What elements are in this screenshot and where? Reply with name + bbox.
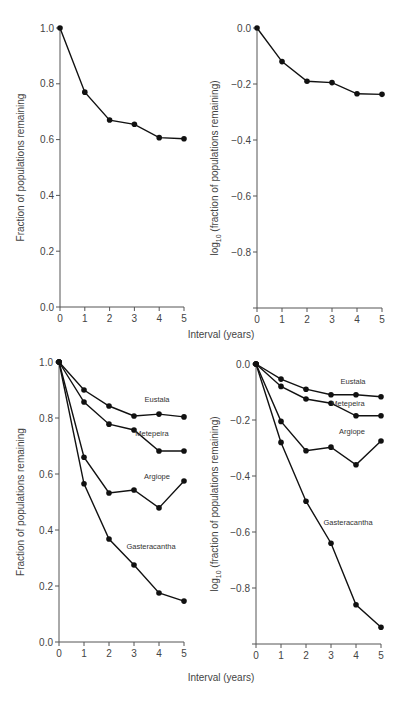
x-tick-label: 5	[181, 313, 187, 324]
x-tick-label: 2	[303, 650, 309, 661]
series-label: Gasteracantha	[126, 542, 176, 551]
x-tick-label: 0	[253, 650, 259, 661]
y-tick-label: −0.4	[231, 135, 251, 146]
y-tick-label: 0.0	[39, 637, 53, 648]
series-label: Metepeira	[331, 399, 365, 408]
data-point	[107, 117, 113, 123]
series-label: Metepeira	[135, 429, 169, 438]
chart-figure: 0123450.00.20.40.60.81.0Fraction of popu…	[0, 0, 407, 704]
x-tick-label: 3	[329, 314, 335, 325]
data-point	[278, 384, 284, 390]
data-point	[131, 562, 137, 568]
data-point	[81, 481, 87, 487]
y-tick-label: 0.4	[39, 525, 53, 536]
series-label: Argiope	[339, 427, 365, 436]
panel-top-left: 0123450.00.20.40.60.81.0Fraction of popu…	[15, 23, 187, 325]
data-point	[181, 448, 187, 454]
data-point	[303, 498, 309, 504]
data-point	[82, 89, 88, 95]
x-tick-label: 5	[379, 314, 385, 325]
y-axis-title: log10 (fraction of populations remaining…	[209, 80, 222, 255]
data-point	[304, 78, 310, 84]
data-point	[329, 80, 335, 86]
series-label: Argiope	[144, 472, 170, 481]
x-tick-label: 0	[254, 314, 260, 325]
series-line-all-species	[257, 28, 382, 94]
data-point	[156, 411, 162, 417]
series-label: Eustala	[340, 377, 366, 386]
data-point	[353, 413, 359, 419]
y-tick-label: 0.6	[39, 469, 53, 480]
y-tick-label: 0.0	[40, 302, 54, 313]
data-point	[328, 392, 334, 398]
data-point	[303, 448, 309, 454]
data-point	[378, 438, 384, 444]
series-line-eustala	[59, 362, 184, 417]
x-axis-title-bottom: Interval (years)	[188, 672, 255, 683]
x-tick-label: 2	[106, 648, 112, 659]
data-point	[353, 392, 359, 398]
x-tick-label: 2	[107, 313, 113, 324]
data-point	[106, 421, 112, 427]
data-point	[106, 490, 112, 496]
data-point	[353, 462, 359, 468]
data-point	[278, 419, 284, 425]
data-point	[181, 478, 187, 484]
y-tick-label: −0.8	[231, 247, 251, 258]
x-tick-label: 3	[132, 313, 138, 324]
data-point	[81, 454, 87, 460]
y-tick-label: 0.8	[40, 78, 54, 89]
data-point	[156, 135, 162, 141]
data-point	[303, 396, 309, 402]
data-point	[181, 598, 187, 604]
series-label: Eustala	[144, 395, 170, 404]
y-tick-label: 0.2	[40, 246, 54, 257]
y-tick-label: −0.6	[230, 527, 250, 538]
data-point	[379, 92, 385, 98]
y-tick-label: 1.0	[40, 23, 54, 34]
y-tick-label: −0.6	[231, 191, 251, 202]
data-point	[378, 394, 384, 400]
y-axis-title: log10 (fraction of populations remaining…	[209, 416, 222, 591]
data-point	[132, 121, 138, 127]
panel-top-right: 0123450.0−0.2−0.4−0.6−0.8log10 (fraction…	[209, 23, 385, 326]
data-point	[131, 487, 137, 493]
data-point	[279, 59, 285, 65]
data-point	[181, 414, 187, 420]
data-point	[378, 624, 384, 630]
y-tick-label: 0.8	[39, 413, 53, 424]
y-tick-label: 0.2	[39, 581, 53, 592]
data-point	[56, 359, 62, 365]
data-point	[131, 413, 137, 419]
x-tick-label: 1	[82, 313, 88, 324]
x-tick-label: 4	[354, 314, 360, 325]
series-line-all-species	[60, 28, 184, 139]
data-point	[156, 590, 162, 596]
data-point	[181, 136, 187, 142]
x-tick-label: 4	[156, 648, 162, 659]
y-tick-label: 0.6	[40, 134, 54, 145]
x-tick-label: 3	[328, 650, 334, 661]
y-tick-label: −0.8	[230, 583, 250, 594]
data-point	[328, 444, 334, 450]
y-tick-label: −0.2	[230, 415, 250, 426]
data-point	[378, 413, 384, 419]
data-point	[303, 386, 309, 392]
series-label: Gasteracantha	[323, 518, 373, 527]
x-tick-label: 1	[279, 314, 285, 325]
data-point	[106, 403, 112, 409]
data-point	[328, 540, 334, 546]
data-point	[81, 387, 87, 393]
data-point	[253, 361, 259, 367]
y-tick-label: 0.0	[237, 23, 251, 34]
data-point	[354, 91, 360, 97]
y-axis-title: Fraction of populations remaining	[15, 428, 26, 576]
x-tick-label: 4	[353, 650, 359, 661]
x-tick-label: 2	[304, 314, 310, 325]
panel-bottom-left: 0123450.00.20.40.60.81.0Fraction of popu…	[15, 357, 187, 660]
data-point	[81, 399, 87, 405]
y-tick-label: −0.2	[231, 79, 251, 90]
x-tick-label: 0	[56, 648, 62, 659]
x-tick-label: 1	[278, 650, 284, 661]
x-tick-label: 5	[181, 648, 187, 659]
